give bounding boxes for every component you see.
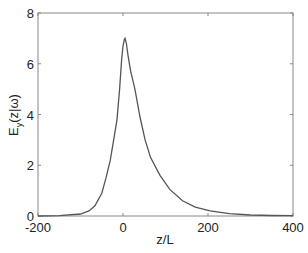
plot-area — [38, 13, 293, 216]
x-tick-label: 200 — [197, 220, 219, 235]
y-tick-labels: 02468 — [27, 6, 34, 224]
x-tick-label: 0 — [119, 220, 126, 235]
x-tick-label: 400 — [282, 220, 304, 235]
y-axis-label: Ey(z|ω) — [6, 94, 24, 136]
y-tick-label: 8 — [27, 6, 34, 21]
y-tick-label: 2 — [27, 158, 34, 173]
line-chart: 02468 -2000200400 z/L Ey(z|ω) — [0, 0, 308, 253]
x-tick-label: -200 — [25, 220, 51, 235]
y-tick-label: 6 — [27, 57, 34, 72]
y-tick-label: 4 — [27, 108, 34, 123]
x-axis-label: z/L — [156, 232, 173, 247]
